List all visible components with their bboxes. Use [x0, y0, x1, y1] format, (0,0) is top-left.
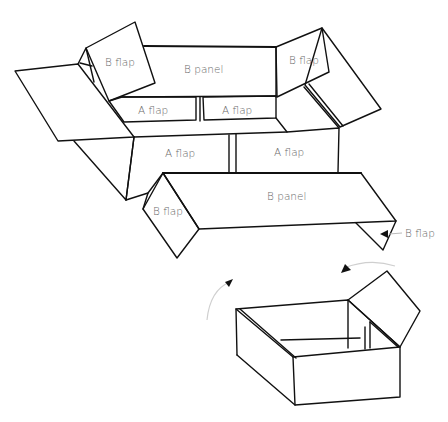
label-a-flap-inner-right: A flap — [222, 104, 252, 116]
label-b-flap-front-left: B flap — [153, 205, 183, 217]
label-a-flap-inner-left: A flap — [138, 104, 168, 116]
fold-arrow-left — [207, 282, 230, 320]
b-flap-front-right — [356, 221, 396, 250]
label-b-flap-callout: B flap — [405, 227, 435, 239]
label-b-flap-top-right: B flap — [289, 54, 319, 66]
left-lower-flap — [74, 137, 134, 200]
raised-flap — [348, 271, 420, 347]
label-b-panel-top: B panel — [184, 63, 223, 75]
box-diagram: B flap B panel B flap A flap A flap A fl… — [0, 0, 448, 422]
arrow-head-right — [341, 264, 351, 273]
unfolded-box — [15, 22, 402, 258]
fold-arrow-right — [344, 262, 395, 268]
assembled-box — [207, 262, 420, 405]
arrow-head-left — [225, 279, 233, 287]
left-side-flap — [15, 64, 134, 141]
label-b-panel-front: B panel — [267, 190, 306, 202]
label-b-flap-top-left: B flap — [105, 56, 135, 68]
label-a-flap-outer-left: A flap — [165, 147, 195, 159]
label-a-flap-outer-right: A flap — [274, 146, 304, 158]
